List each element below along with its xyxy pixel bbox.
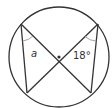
angle-label-a: a bbox=[31, 48, 37, 59]
inscribed-angles-diagram: a 18° bbox=[0, 0, 112, 108]
chord-left-side bbox=[21, 24, 27, 93]
chord-right-side bbox=[91, 24, 98, 93]
angle-label-18: 18° bbox=[73, 50, 91, 61]
center-dot bbox=[57, 55, 60, 58]
angle-arc-right bbox=[85, 37, 96, 42]
angle-arc-left bbox=[23, 36, 33, 41]
